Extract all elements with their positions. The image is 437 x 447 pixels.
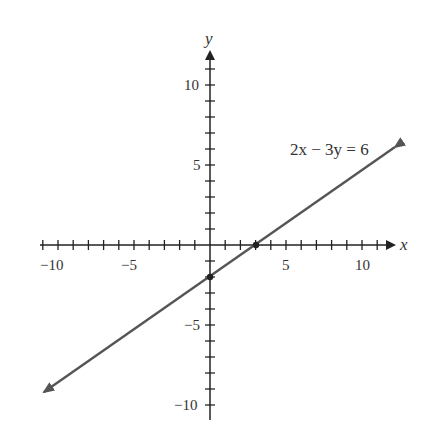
tick-label-x-neg5: −5: [121, 257, 137, 273]
x-intercept-point: [253, 242, 259, 248]
graph: y x −10 −5 5 10 10 5 −5 −10 2x − 3y = 6: [0, 0, 437, 447]
y-axis-label: y: [203, 29, 213, 48]
tick-label-y-neg10: −10: [174, 397, 197, 413]
y-axis: [205, 52, 215, 420]
line-2x-3y-6: [44, 147, 395, 392]
tick-label-x-5: 5: [282, 257, 290, 273]
tick-label-y-10: 10: [184, 77, 199, 93]
x-axis-label: x: [399, 235, 408, 254]
x-axis: [40, 240, 394, 250]
tick-label-y-5: 5: [193, 157, 201, 173]
y-intercept-point: [207, 274, 213, 280]
tick-label-y-neg5: −5: [184, 317, 200, 333]
tick-label-x-10: 10: [355, 257, 370, 273]
equation-label: 2x − 3y = 6: [290, 140, 369, 159]
tick-label-x-neg10: −10: [40, 257, 63, 273]
